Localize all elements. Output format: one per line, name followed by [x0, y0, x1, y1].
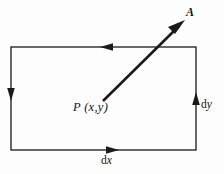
vector-a-shaft	[103, 26, 179, 101]
left-edge-arrow-down-icon	[7, 88, 15, 101]
dy-label-var: y	[207, 98, 212, 110]
vector-label-a: A	[186, 6, 194, 18]
bottom-edge-arrow-right-icon	[106, 146, 119, 154]
figure-canvas: A P (x,y) dy dx	[0, 0, 224, 174]
rectangle-loop	[11, 47, 196, 150]
top-edge-arrow-left-icon	[100, 43, 113, 51]
dx-label: dx	[101, 155, 112, 167]
vector-a-arrowhead-icon	[168, 20, 185, 34]
dx-label-var: x	[107, 154, 112, 166]
diagram-svg	[0, 0, 224, 174]
point-label-p: P (x,y)	[73, 101, 108, 114]
right-edge-arrow-up-icon	[192, 92, 200, 105]
dy-label: dy	[201, 99, 212, 111]
